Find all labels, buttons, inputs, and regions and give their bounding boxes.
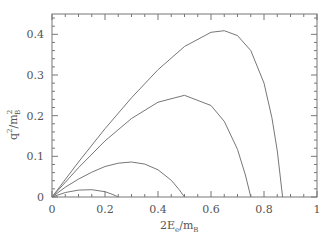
x-tick-label: 0.2 xyxy=(96,203,114,216)
curve-1 xyxy=(52,31,283,197)
axis-ticks xyxy=(52,14,317,197)
y-tick-label: 0.1 xyxy=(27,150,45,163)
x-axis-label: 2Ee/mB xyxy=(160,219,198,234)
curve-2 xyxy=(52,95,251,197)
y-tick-labels: 00.10.20.30.4 xyxy=(27,28,45,204)
y-tick-label: 0 xyxy=(37,191,44,204)
chart: 00.20.40.60.81 00.10.20.30.4 2Ee/mB q2/m… xyxy=(0,0,332,242)
curve-4 xyxy=(52,190,118,197)
data-curves xyxy=(52,31,283,197)
x-tick-labels: 00.20.40.60.81 xyxy=(49,203,321,216)
x-tick-label: 1 xyxy=(314,203,321,216)
y-tick-label: 0.2 xyxy=(27,110,45,123)
plot-frame xyxy=(52,14,317,197)
y-tick-label: 0.4 xyxy=(27,28,45,41)
x-tick-label: 0 xyxy=(49,203,56,216)
x-tick-label: 0.6 xyxy=(202,203,220,216)
x-tick-label: 0.4 xyxy=(149,203,167,216)
y-axis-label: q2/m2B xyxy=(6,110,22,140)
y-tick-label: 0.3 xyxy=(27,69,45,82)
x-tick-label: 0.8 xyxy=(255,203,273,216)
